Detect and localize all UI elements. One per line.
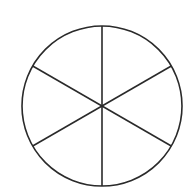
divided-circle-diagram: [0, 0, 184, 189]
